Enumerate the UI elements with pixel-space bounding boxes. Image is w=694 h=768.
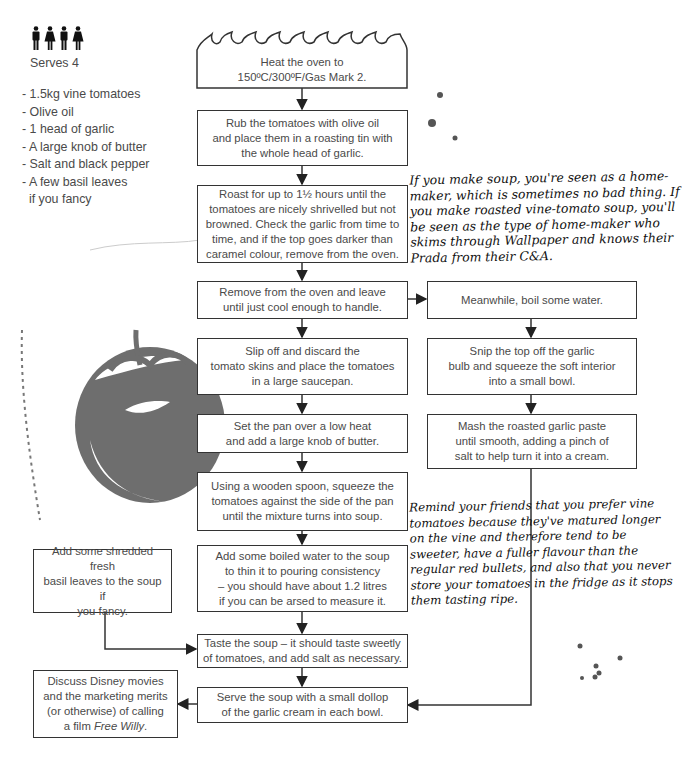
step-slip-skins: Slip off and discard the tomato skins an… <box>197 338 408 395</box>
step-rub-tomatoes: Rub the tomatoes with olive oil and plac… <box>197 110 408 166</box>
step-text: Set the pan over a low heat and add a la… <box>226 419 379 449</box>
step-text: Slip off and discard the tomato skins an… <box>211 344 395 389</box>
step-roast: Roast for up to 1½ hours until the tomat… <box>197 185 408 263</box>
step-text: Roast for up to 1½ hours until the tomat… <box>206 187 399 262</box>
handwritten-note-homemaker: If you make soup, you're seen as a home-… <box>409 168 694 266</box>
step-heat-oven: Heat the oven to 150ºC/300ºF/Gas Mark 2. <box>197 55 407 85</box>
step-taste: Taste the soup – it should taste sweetly… <box>197 634 408 668</box>
step-text: Taste the soup – it should taste sweetly… <box>203 636 402 666</box>
step-boil-water: Meanwhile, boil some water. <box>427 281 637 319</box>
handwritten-note-vine-tomatoes: Remind your friends that you prefer vine… <box>409 496 694 609</box>
step-text: Rub the tomatoes with olive oil and plac… <box>212 116 392 161</box>
film-title: Free Willy <box>94 720 144 732</box>
step-text: Add some shredded fresh basil leaves to … <box>40 544 165 619</box>
step-discuss-disney: Discuss Disney movies and the marketing … <box>33 670 178 738</box>
step-squeeze-tomatoes: Using a wooden spoon, squeeze the tomato… <box>197 472 408 531</box>
step-remove-from-oven: Remove from the oven and leave until jus… <box>197 281 408 319</box>
step-add-basil: Add some shredded fresh basil leaves to … <box>33 549 172 613</box>
step-set-pan: Set the pan over a low heat and add a la… <box>197 414 408 453</box>
step-text: Serve the soup with a small dollop of th… <box>217 690 388 720</box>
step-text: Mash the roasted garlic paste until smoo… <box>455 419 609 464</box>
step-serve: Serve the soup with a small dollop of th… <box>197 687 408 723</box>
step-add-water: Add some boiled water to the soup to thi… <box>197 545 408 612</box>
step-text: Using a wooden spoon, squeeze the tomato… <box>211 479 394 524</box>
step-text: Meanwhile, boil some water. <box>461 293 603 308</box>
step-mash-garlic: Mash the roasted garlic paste until smoo… <box>427 414 637 469</box>
step-text: Snip the top off the garlic bulb and squ… <box>448 344 615 389</box>
step-text: Remove from the oven and leave until jus… <box>219 285 385 315</box>
discuss-end: . <box>144 720 147 732</box>
step-text: Add some boiled water to the soup to thi… <box>216 549 390 609</box>
step-text: Discuss Disney movies and the marketing … <box>43 674 167 734</box>
step-snip-garlic: Snip the top off the garlic bulb and squ… <box>427 338 637 395</box>
